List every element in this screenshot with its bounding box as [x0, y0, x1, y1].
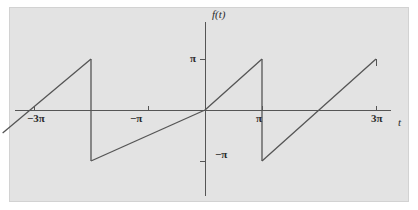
x-axis-label: t [398, 117, 401, 128]
sawtooth-segment-0-2 [91, 110, 205, 161]
sawtooth-plot-svg [0, 0, 418, 210]
y-tick-label-pi: π [190, 53, 196, 64]
sawtooth-segment-0-0 [3, 59, 91, 133]
y-axis-label: f(t) [212, 9, 225, 20]
sawtooth-segment-0-4 [205, 59, 262, 110]
figure-root: f(t) t π −π −3π −π π 3π [0, 0, 418, 210]
x-tick-label-negative-pi: −π [130, 113, 142, 124]
x-tick-label-3pi: 3π [371, 113, 383, 124]
x-tick-label-negative-3pi: −3π [27, 113, 45, 124]
axes-group [15, 22, 391, 196]
y-tick-label-negative-pi: −π [215, 149, 227, 160]
x-tick-label-pi: π [256, 113, 262, 124]
